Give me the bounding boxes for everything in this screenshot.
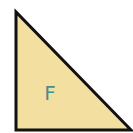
triangle-label: F [44,81,56,105]
right-triangle-shape [16,12,131,130]
diagram-canvas: F [0,0,133,133]
